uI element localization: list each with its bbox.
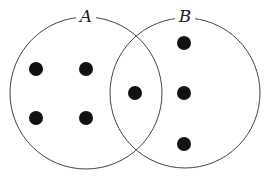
element-dot: [29, 111, 43, 125]
element-dot: [128, 86, 142, 100]
element-dot: [177, 86, 191, 100]
element-dot: [177, 137, 191, 151]
element-dot: [79, 62, 93, 76]
venn-diagram: AB: [0, 0, 270, 179]
element-dot: [29, 62, 43, 76]
set-label-b: B: [178, 6, 192, 26]
set-label-a: A: [78, 6, 92, 26]
element-dot: [177, 36, 191, 50]
element-dot: [79, 111, 93, 125]
